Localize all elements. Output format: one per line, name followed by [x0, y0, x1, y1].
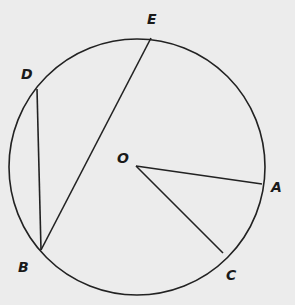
- point-label-A: A: [270, 179, 282, 195]
- circle-diagram: E D O A B C: [0, 0, 295, 305]
- point-label-B: B: [18, 259, 29, 275]
- point-label-O: O: [117, 150, 129, 166]
- chord-DB: [37, 89, 41, 250]
- point-label-D: D: [21, 66, 33, 82]
- point-label-C: C: [226, 267, 237, 283]
- radius-OA: [136, 166, 262, 184]
- point-label-E: E: [147, 11, 157, 27]
- radius-OC: [136, 166, 223, 253]
- chord-BE: [41, 38, 151, 250]
